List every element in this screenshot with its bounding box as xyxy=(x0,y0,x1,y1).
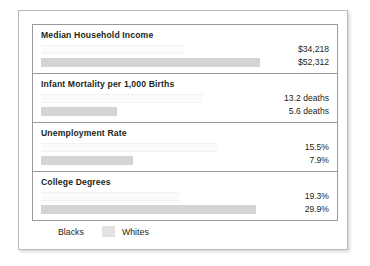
bar-row-whites: $52,312 xyxy=(41,56,330,69)
metric-title: Infant Mortality per 1,000 Births xyxy=(41,78,330,91)
chart-legend: Blacks Whites xyxy=(38,226,149,237)
bar-value-blacks: $34,218 xyxy=(273,43,329,55)
bar-value-whites: 5.6 deaths xyxy=(273,105,329,117)
bar-track xyxy=(41,192,272,201)
legend-label-blacks: Blacks xyxy=(58,227,84,237)
bar-row-blacks: 15.5% xyxy=(41,141,330,154)
bar-fill-blacks xyxy=(41,45,184,54)
legend-label-whites: Whites xyxy=(122,227,149,237)
bar-row-whites: 5.6 deaths xyxy=(41,105,330,118)
figure-root: Median Household Income $34,218 $52,312 … xyxy=(0,0,370,266)
bar-value-whites: $52,312 xyxy=(273,56,329,68)
metrics-table: Median Household Income $34,218 $52,312 … xyxy=(32,24,338,221)
bar-track xyxy=(41,107,272,116)
metric-panel-unemployment-rate: Unemployment Rate 15.5% 7.9% xyxy=(33,123,337,172)
bar-track xyxy=(41,143,272,152)
bar-track xyxy=(41,205,272,214)
metric-panel-median-household-income: Median Household Income $34,218 $52,312 xyxy=(33,25,337,74)
bar-value-blacks: 13.2 deaths xyxy=(273,92,329,104)
bar-track xyxy=(41,45,272,54)
bar-fill-whites xyxy=(41,107,117,116)
bar-value-whites: 29.9% xyxy=(273,203,329,215)
metric-title: Unemployment Rate xyxy=(41,127,330,140)
bar-fill-blacks xyxy=(41,192,180,201)
whites-swatch xyxy=(102,226,115,237)
bar-row-blacks: 19.3% xyxy=(41,190,330,203)
metric-title: Median Household Income xyxy=(41,29,330,42)
bar-value-blacks: 15.5% xyxy=(273,141,329,153)
bar-value-whites: 7.9% xyxy=(273,154,329,166)
bar-track xyxy=(41,58,272,67)
bar-fill-whites xyxy=(41,58,260,67)
bar-fill-whites xyxy=(41,205,256,214)
metric-panel-college-degrees: College Degrees 19.3% 29.9% xyxy=(33,172,337,220)
bar-row-blacks: 13.2 deaths xyxy=(41,92,330,105)
bar-row-whites: 29.9% xyxy=(41,203,330,216)
metric-panel-infant-mortality: Infant Mortality per 1,000 Births 13.2 d… xyxy=(33,74,337,123)
bar-track xyxy=(41,94,272,103)
bar-row-blacks: $34,218 xyxy=(41,43,330,56)
bar-fill-whites xyxy=(41,156,133,165)
bar-row-whites: 7.9% xyxy=(41,154,330,167)
legend-entry-whites: Whites xyxy=(102,226,149,237)
metric-title: College Degrees xyxy=(41,176,330,189)
bar-fill-blacks xyxy=(41,94,203,103)
bar-track xyxy=(41,156,272,165)
blacks-swatch xyxy=(38,226,51,237)
bar-fill-blacks xyxy=(41,143,217,152)
legend-entry-blacks: Blacks xyxy=(38,226,84,237)
bar-value-blacks: 19.3% xyxy=(273,190,329,202)
